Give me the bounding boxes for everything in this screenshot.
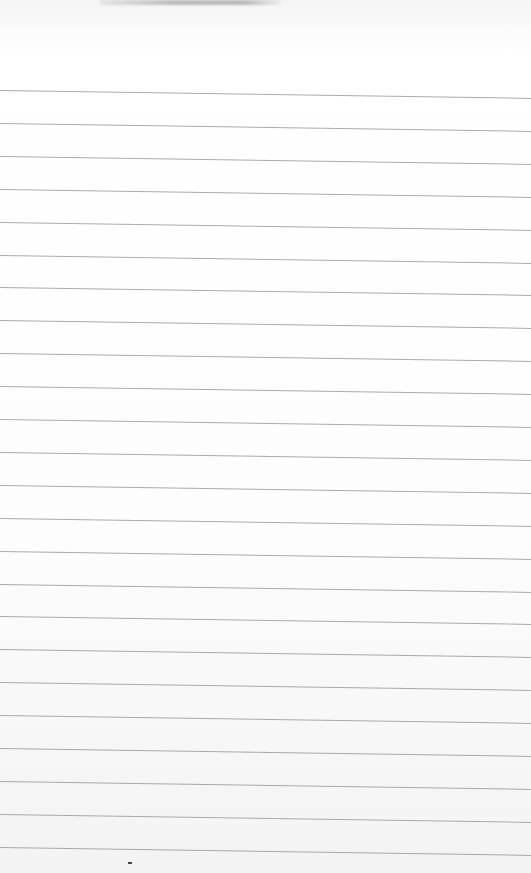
ruled-line bbox=[0, 584, 531, 593]
ruled-line bbox=[0, 781, 531, 790]
ruled-line bbox=[0, 123, 531, 132]
ruled-line bbox=[0, 386, 531, 395]
ruled-line bbox=[0, 551, 531, 560]
ruled-line bbox=[0, 847, 531, 856]
pencil-mark bbox=[128, 862, 132, 864]
ruled-line bbox=[0, 255, 531, 264]
ruled-line bbox=[0, 320, 531, 329]
ruled-line bbox=[0, 649, 531, 658]
ruled-line bbox=[0, 814, 531, 823]
top-shadow bbox=[100, 0, 280, 5]
ruled-line bbox=[0, 419, 531, 428]
ruled-line bbox=[0, 222, 531, 231]
ruled-line bbox=[0, 156, 531, 165]
ruled-line bbox=[0, 616, 531, 625]
ruled-line bbox=[0, 682, 531, 691]
ruled-line bbox=[0, 715, 531, 724]
ruled-line bbox=[0, 189, 531, 198]
ruled-line bbox=[0, 287, 531, 296]
ruled-line bbox=[0, 485, 531, 494]
ruled-line bbox=[0, 748, 531, 757]
lined-paper bbox=[0, 0, 531, 873]
ruled-line bbox=[0, 353, 531, 362]
ruled-line bbox=[0, 452, 531, 461]
ruled-line bbox=[0, 90, 531, 99]
ruled-line bbox=[0, 518, 531, 527]
